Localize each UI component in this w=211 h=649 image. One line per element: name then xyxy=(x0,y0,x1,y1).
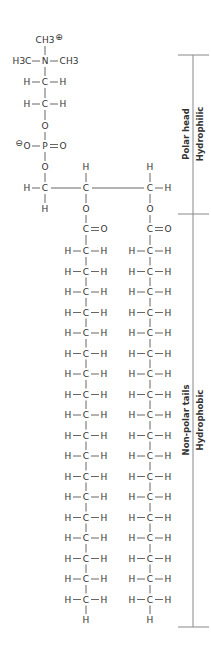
atom-h: H xyxy=(65,472,72,482)
atom-h: H xyxy=(42,204,49,214)
atom-c: C xyxy=(147,390,153,400)
atom-h: H xyxy=(165,410,172,420)
atom-h: H xyxy=(101,349,108,359)
atom-h: H xyxy=(165,246,172,256)
atom-h: H xyxy=(165,183,172,193)
atom-h: H xyxy=(60,99,67,109)
atom-h: H xyxy=(65,492,72,502)
atom-o: O xyxy=(41,162,48,172)
atom-h: H xyxy=(83,162,90,172)
atom-h: H xyxy=(101,308,108,318)
fatty-acid-tails: COHCHHCHHCHHCHHCHHCHHCHHCHHCHHCHHCHHCHHC… xyxy=(65,215,172,625)
atom-h: H xyxy=(65,390,72,400)
atom-h: H xyxy=(129,246,136,256)
atom-h: H xyxy=(65,533,72,543)
atom-c: C xyxy=(147,513,153,523)
region-brackets: Polar head Hydrophilic Non-polar tails H… xyxy=(178,55,209,627)
atom-h: H xyxy=(65,431,72,441)
hydrophilic-label: Hydrophilic xyxy=(195,107,205,162)
non-polar-tails-label: Non-polar tails xyxy=(181,385,191,456)
atom-c: C xyxy=(83,183,89,193)
atom-right-ch3: CH3 xyxy=(60,56,79,66)
polar-head-structure: CH3 ⊕ H3C N CH3 H C H H C H O ⊖ O P O O xyxy=(13,32,79,182)
atom-h: H xyxy=(129,492,136,502)
atom-h: H xyxy=(165,308,172,318)
atom-h: H xyxy=(129,574,136,584)
atom-c: C xyxy=(83,533,89,543)
atom-c: C xyxy=(147,349,153,359)
atom-h: H xyxy=(65,246,72,256)
atom-h: H xyxy=(147,162,154,172)
atom-h: H xyxy=(65,267,72,277)
atom-h: H xyxy=(165,349,172,359)
atom-h: H xyxy=(101,574,108,584)
atom-c: C xyxy=(147,308,153,318)
atom-c: C xyxy=(83,513,89,523)
atom-c: C xyxy=(83,308,89,318)
atom-o: O xyxy=(146,204,153,214)
atom-h: H xyxy=(129,431,136,441)
atom-o: O xyxy=(23,141,30,151)
atom-h: H xyxy=(165,513,172,523)
atom-h: H xyxy=(65,349,72,359)
atom-h: H xyxy=(165,267,172,277)
atom-h: H xyxy=(60,77,67,87)
atom-h: H xyxy=(65,287,72,297)
atom-h: H xyxy=(65,513,72,523)
atom-c: C xyxy=(147,574,153,584)
atom-h: H xyxy=(24,77,31,87)
atom-c: C xyxy=(42,77,48,87)
atom-c: C xyxy=(83,574,89,584)
atom-h: H xyxy=(101,431,108,441)
atom-c: C xyxy=(147,183,153,193)
atom-h: H xyxy=(65,574,72,584)
atom-c: C xyxy=(83,349,89,359)
atom-c: C xyxy=(147,431,153,441)
atom-terminal-h: H xyxy=(147,615,154,625)
atom-h: H xyxy=(129,287,136,297)
atom-p: P xyxy=(42,141,48,151)
atom-c: C xyxy=(83,472,89,482)
atom-h: H xyxy=(165,431,172,441)
atom-c: C xyxy=(83,246,89,256)
atom-c: C xyxy=(42,99,48,109)
atom-c: C xyxy=(83,451,89,461)
atom-h: H xyxy=(129,410,136,420)
atom-h: H xyxy=(101,267,108,277)
atom-h: H xyxy=(165,451,172,461)
atom-carbonyl-c: C xyxy=(147,224,153,234)
atom-h: H xyxy=(24,183,31,193)
atom-c: C xyxy=(42,183,48,193)
atom-c: C xyxy=(83,595,89,605)
atom-h: H xyxy=(129,369,136,379)
atom-h: H xyxy=(129,554,136,564)
atom-c: C xyxy=(147,533,153,543)
atom-h: H xyxy=(165,390,172,400)
atom-c: C xyxy=(147,451,153,461)
atom-h: H xyxy=(65,369,72,379)
atom-c: C xyxy=(83,410,89,420)
atom-c: C xyxy=(83,554,89,564)
atom-h: H xyxy=(165,554,172,564)
atom-h: H xyxy=(101,451,108,461)
atom-c: C xyxy=(147,246,153,256)
atom-c: C xyxy=(147,554,153,564)
atom-h: H xyxy=(65,410,72,420)
atom-carbonyl-o: O xyxy=(164,224,171,234)
atom-c: C xyxy=(83,267,89,277)
atom-h: H xyxy=(129,308,136,318)
atom-c: C xyxy=(83,431,89,441)
atom-h: H xyxy=(24,99,31,109)
atom-c: C xyxy=(83,328,89,338)
atom-h: H xyxy=(129,390,136,400)
atom-h: H xyxy=(101,390,108,400)
atom-n: N xyxy=(42,56,49,66)
atom-c: C xyxy=(83,369,89,379)
hydrophobic-label: Hydrophobic xyxy=(195,390,205,451)
atom-h: H xyxy=(129,595,136,605)
atom-h: H xyxy=(101,554,108,564)
atom-h: H xyxy=(101,328,108,338)
atom-h: H xyxy=(65,328,72,338)
atom-top-ch3: CH3 xyxy=(36,35,55,45)
atom-h: H xyxy=(101,369,108,379)
